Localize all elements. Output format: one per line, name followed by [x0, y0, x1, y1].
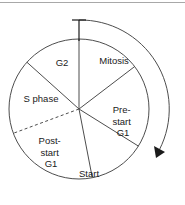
sector-label-post-start-g1-line-3: G1	[45, 158, 58, 169]
sector-label-s-phase: S phase	[24, 93, 59, 104]
sector-label-g2: G2	[56, 57, 69, 68]
sector-label-start: Start	[79, 168, 99, 179]
sector-label-post-start-g1-line-2: start	[40, 146, 59, 157]
sector-label-pre-start-g1-line-3: G1	[117, 127, 130, 138]
sector-label-mitosis: Mitosis	[99, 55, 129, 66]
cell-cycle-diagram: Mitosis Pre- start G1 Start Post- start …	[0, 0, 185, 205]
cell-cycle-figure: Mitosis Pre- start G1 Start Post- start …	[0, 0, 185, 205]
cycle-direction-arrowhead-icon	[154, 146, 165, 158]
sector-label-pre-start-g1-line-1: Pre-	[113, 104, 131, 115]
sector-label-pre-start-g1-line-2: start	[112, 115, 131, 126]
sector-label-post-start-g1-line-1: Post-	[39, 135, 61, 146]
